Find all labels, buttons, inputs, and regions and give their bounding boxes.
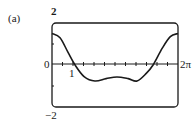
function-curve <box>52 34 178 82</box>
x-axis-ticks <box>52 44 168 86</box>
plot-area <box>0 0 194 127</box>
